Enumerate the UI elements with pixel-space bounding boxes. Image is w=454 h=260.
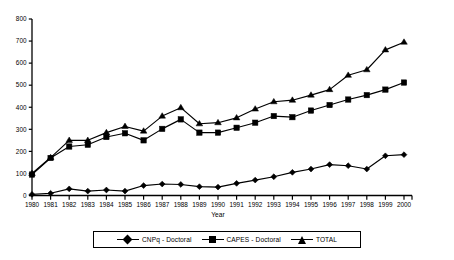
legend-item-capes-doctoral: CAPES - Doctoral (202, 235, 281, 244)
x-axis-tick-label: 1984 (99, 201, 114, 208)
y-axis-tick-label: 300 (16, 126, 27, 133)
legend-label-cnpq-doctoral: CNPq - Doctoral (142, 236, 192, 243)
x-axis-tick-label: 1986 (136, 201, 151, 208)
x-axis-tick-label: 2000 (397, 201, 412, 208)
diamond-marker-icon (117, 235, 139, 244)
y-axis-tick-label: 800 (16, 15, 27, 22)
x-axis-tick-label: 1982 (62, 201, 77, 208)
square-marker-icon (202, 235, 224, 244)
chart-plot-area: 0100200300400500600700800198019811982198… (0, 0, 454, 260)
x-axis-tick-label: 1988 (174, 201, 189, 208)
x-axis-title: Year (211, 211, 225, 218)
line-chart: 0100200300400500600700800198019811982198… (0, 0, 454, 260)
x-axis-tick-label: 1997 (341, 201, 356, 208)
legend-item-total: TOTAL (291, 235, 337, 244)
x-axis-tick-label: 1987 (155, 201, 170, 208)
x-axis-tick-label: 1992 (248, 201, 263, 208)
triangle-marker-icon (291, 235, 313, 244)
series-capes-doctoral (29, 80, 406, 177)
series-total (29, 39, 408, 176)
x-axis-tick-label: 1980 (25, 201, 40, 208)
y-axis-tick-label: 0 (23, 192, 27, 199)
x-axis-tick-label: 1983 (81, 201, 96, 208)
legend-label-capes-doctoral: CAPES - Doctoral (227, 236, 281, 243)
x-axis-tick-label: 1995 (304, 201, 319, 208)
x-axis-tick-label: 1998 (360, 201, 375, 208)
x-axis-tick-label: 1996 (322, 201, 337, 208)
y-axis-tick-label: 600 (16, 59, 27, 66)
series-cnpq-doctoral (29, 152, 407, 198)
y-axis-tick-label: 100 (16, 170, 27, 177)
x-axis-tick-label: 1993 (267, 201, 282, 208)
y-axis-tick-label: 500 (16, 81, 27, 88)
legend-item-cnpq-doctoral: CNPq - Doctoral (117, 235, 192, 244)
x-axis-tick-label: 1985 (118, 201, 133, 208)
y-axis-tick-label: 700 (16, 37, 27, 44)
x-axis-tick-label: 1981 (43, 201, 58, 208)
x-axis-tick-label: 1991 (229, 201, 244, 208)
x-axis-tick-label: 1989 (192, 201, 207, 208)
y-axis-tick-label: 400 (16, 104, 27, 111)
legend-label-total: TOTAL (316, 236, 337, 243)
y-axis-tick-label: 200 (16, 148, 27, 155)
x-axis-tick-label: 1994 (285, 201, 300, 208)
chart-legend: CNPq - Doctoral CAPES - Doctoral TOTAL (93, 231, 361, 248)
x-axis-tick-label: 1999 (378, 201, 393, 208)
x-axis-tick-label: 1990 (211, 201, 226, 208)
